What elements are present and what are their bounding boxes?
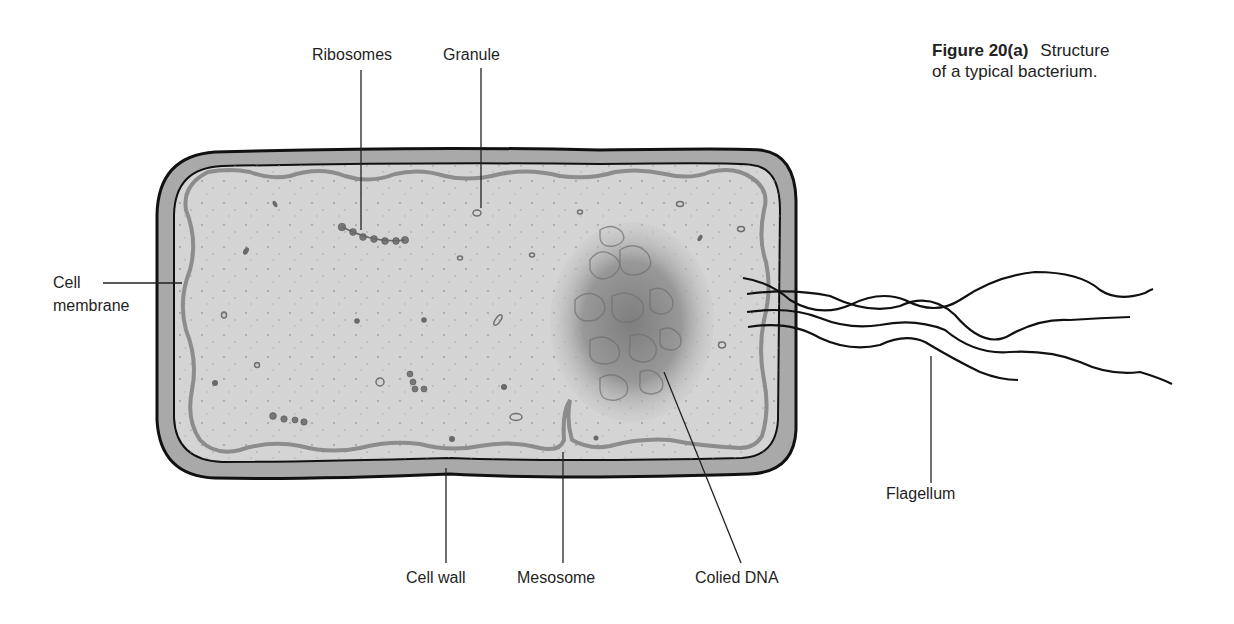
caption-line-1: Figure 20(a)Structure xyxy=(932,40,1109,61)
caption-title: Structure xyxy=(1040,41,1109,60)
coiled-dna xyxy=(550,222,714,422)
label-cell-membrane-line1: Cell xyxy=(53,274,81,292)
flagella xyxy=(743,272,1172,384)
caption-line-2: of a typical bacterium. xyxy=(932,61,1109,82)
label-ribosomes: Ribosomes xyxy=(312,46,392,64)
label-granule: Granule xyxy=(443,46,500,64)
figure-number: Figure 20(a) xyxy=(932,41,1028,60)
label-coiled-dna: Colied DNA xyxy=(695,569,779,587)
label-cell-wall: Cell wall xyxy=(406,569,466,587)
figure-caption: Figure 20(a)Structure of a typical bacte… xyxy=(932,40,1109,82)
label-mesosome: Mesosome xyxy=(517,569,595,587)
label-flagellum: Flagellum xyxy=(886,485,955,503)
label-cell-membrane-line2: membrane xyxy=(53,297,129,315)
bacterium-diagram xyxy=(0,0,1234,624)
